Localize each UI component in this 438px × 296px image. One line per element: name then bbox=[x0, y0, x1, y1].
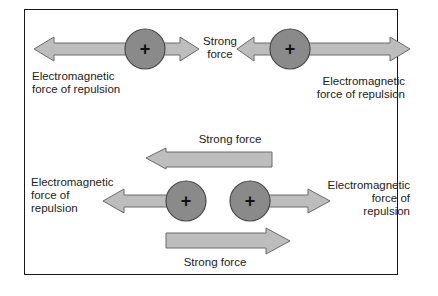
label-line: Strong bbox=[198, 35, 242, 48]
proton-plus-top-left: + bbox=[140, 39, 151, 59]
proton-plus-bottom-left: + bbox=[181, 191, 192, 211]
label-line: force of bbox=[31, 189, 113, 202]
label-strong-top: Strong force bbox=[198, 35, 242, 61]
label-line: force of bbox=[300, 192, 410, 205]
label-em-bottom-right: Electromagnetic force of repulsion bbox=[300, 179, 410, 218]
label-strong-bottom: Strong force bbox=[170, 256, 260, 269]
label-line: repulsion bbox=[300, 205, 410, 218]
label-line: repulsion bbox=[31, 202, 113, 215]
arrow-em-left-top bbox=[34, 37, 130, 61]
label-line: force of repulsion bbox=[32, 83, 120, 96]
label-line: force of repulsion bbox=[300, 88, 405, 101]
label-line: force bbox=[198, 48, 242, 61]
proton-plus-top-right: + bbox=[285, 39, 296, 59]
label-line: Electromagnetic bbox=[31, 176, 113, 189]
label-line: Electromagnetic bbox=[300, 179, 410, 192]
label-line: Electromagnetic bbox=[300, 75, 405, 88]
arrow-strong-right-bottom bbox=[166, 228, 290, 254]
proton-plus-bottom-right: + bbox=[245, 191, 256, 211]
label-em-top-left: Electromagnetic force of repulsion bbox=[32, 70, 120, 96]
arrow-strong-left-bottom-top bbox=[146, 148, 272, 169]
label-em-top-right: Electromagnetic force of repulsion bbox=[300, 75, 405, 101]
arrow-strong-right-top bbox=[160, 37, 199, 61]
label-line: Electromagnetic bbox=[32, 70, 120, 83]
label-strong-bottom-top: Strong force bbox=[180, 133, 280, 146]
arrow-em-right-top bbox=[300, 37, 410, 61]
label-em-bottom-left: Electromagnetic force of repulsion bbox=[31, 176, 113, 215]
